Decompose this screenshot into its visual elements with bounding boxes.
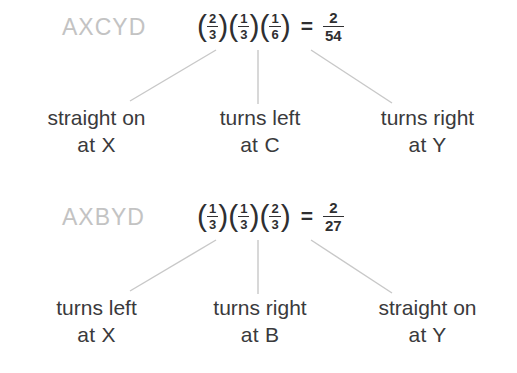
close-paren: ) xyxy=(281,201,291,231)
fraction-1-factor-2: 1 3 xyxy=(238,12,249,41)
fraction-1-factor-3: 1 6 xyxy=(269,12,280,41)
fraction-2-factor-3: 2 3 xyxy=(269,202,280,231)
close-paren: ) xyxy=(218,11,228,41)
denominator: 3 xyxy=(269,216,280,231)
open-paren: ( xyxy=(228,11,238,41)
denominator: 3 xyxy=(238,216,249,231)
probability-equation-1: ( 2 3 ) ( 1 3 ) ( 1 6 ) = xyxy=(197,10,344,43)
open-paren: ( xyxy=(197,201,207,231)
open-paren: ( xyxy=(197,11,207,41)
group-2-header: AXBYD ( 1 3 ) ( 1 3 ) ( 2 3 ) xyxy=(0,196,517,240)
leaf-line-2: at X xyxy=(4,131,189,158)
path-label-axcyd: AXCYD xyxy=(62,14,146,41)
denominator: 54 xyxy=(323,26,344,43)
open-paren: ( xyxy=(259,201,269,231)
fraction-2-result: 2 27 xyxy=(323,200,344,233)
leaf-label-1-right: turns right at Y xyxy=(340,104,515,159)
leaf-label-2-right: straight on at Y xyxy=(340,294,515,349)
denominator: 3 xyxy=(238,26,249,41)
numerator: 1 xyxy=(207,202,218,216)
fraction-2-factor-2: 1 3 xyxy=(238,202,249,231)
leaf-label-2-left: turns left at X xyxy=(4,294,189,349)
probability-branch-group-2: AXBYD ( 1 3 ) ( 1 3 ) ( 2 3 ) xyxy=(0,190,517,373)
numerator: 1 xyxy=(269,12,280,26)
numerator: 2 xyxy=(327,10,339,26)
leaf-line-2: at Y xyxy=(340,131,515,158)
numerator: 2 xyxy=(327,200,339,216)
close-paren: ) xyxy=(281,11,291,41)
leaf-line-1: turns left xyxy=(4,294,189,321)
leaf-line-1: turns right xyxy=(340,104,515,131)
close-paren: ) xyxy=(249,11,259,41)
connector-line-left xyxy=(130,50,216,101)
group-1-header: AXCYD ( 2 3 ) ( 1 3 ) ( 1 6 ) xyxy=(0,6,517,50)
close-paren: ) xyxy=(218,201,228,231)
connector-line-right xyxy=(311,50,392,103)
close-paren: ) xyxy=(249,201,259,231)
numerator: 1 xyxy=(238,202,249,216)
diagram-page: AXCYD ( 2 3 ) ( 1 3 ) ( 1 6 ) xyxy=(0,0,517,373)
leaf-label-1-middle: turns left at C xyxy=(175,104,345,159)
probability-equation-2: ( 1 3 ) ( 1 3 ) ( 2 3 ) = xyxy=(197,200,344,233)
connector-line-right xyxy=(311,240,392,293)
equals-sign: = xyxy=(301,204,313,228)
probability-branch-group-1: AXCYD ( 2 3 ) ( 1 3 ) ( 1 6 ) xyxy=(0,0,517,186)
connector-line-left xyxy=(130,240,216,291)
fraction-2-factor-1: 1 3 xyxy=(207,202,218,231)
fraction-1-factor-1: 2 3 xyxy=(207,12,218,41)
fraction-1-result: 2 54 xyxy=(323,10,344,43)
leaf-line-2: at Y xyxy=(340,321,515,348)
path-label-axbyd: AXBYD xyxy=(62,204,145,231)
leaf-line-1: turns left xyxy=(175,104,345,131)
leaf-line-1: straight on xyxy=(4,104,189,131)
equals-sign: = xyxy=(301,14,313,38)
leaf-label-2-middle: turns right at B xyxy=(175,294,345,349)
open-paren: ( xyxy=(259,11,269,41)
denominator: 6 xyxy=(269,26,280,41)
leaf-line-2: at B xyxy=(175,321,345,348)
denominator: 27 xyxy=(323,216,344,233)
leaf-label-1-left: straight on at X xyxy=(4,104,189,159)
leaf-line-1: straight on xyxy=(340,294,515,321)
numerator: 2 xyxy=(269,202,280,216)
numerator: 2 xyxy=(207,12,218,26)
leaf-line-1: turns right xyxy=(175,294,345,321)
numerator: 1 xyxy=(238,12,249,26)
leaf-line-2: at X xyxy=(4,321,189,348)
denominator: 3 xyxy=(207,216,218,231)
open-paren: ( xyxy=(228,201,238,231)
leaf-line-2: at C xyxy=(175,131,345,158)
denominator: 3 xyxy=(207,26,218,41)
